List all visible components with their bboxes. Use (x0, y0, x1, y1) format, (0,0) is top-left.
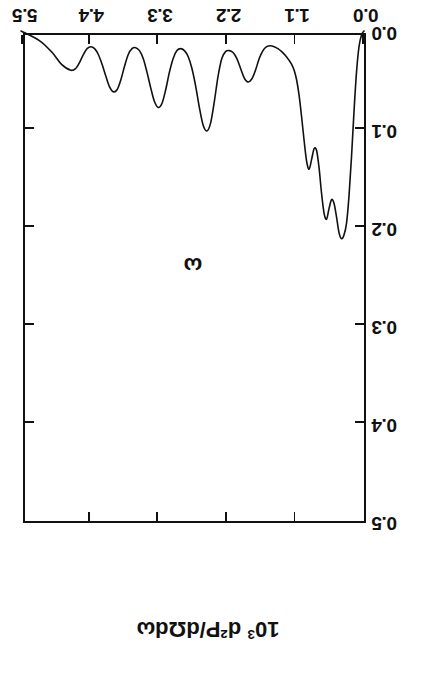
spectrum-curve-path (21, 31, 364, 239)
y-axis-title-rest: d²P/dΩdω (137, 617, 248, 642)
rotated-figure-page: 0.0 1.1 2.2 3.3 4.4 5.5 ω 0.0 0.1 0.2 0.… (0, 0, 445, 674)
xtick-label-1: 1.1 (285, 4, 310, 26)
x-axis-title: ω (184, 252, 203, 278)
ytick-label-4: 0.4 (372, 414, 418, 436)
ytick-label-5: 0.5 (372, 512, 418, 534)
ytick-label-3: 0.3 (372, 316, 418, 338)
ytick-label-0: 0.0 (372, 22, 418, 44)
y-axis-title-prefix: 10 (255, 617, 279, 642)
y-axis-title-exponent: 3 (247, 627, 255, 642)
plot-frame (23, 33, 366, 523)
y-axis-title: 103 d²P/dΩdω (137, 616, 280, 642)
ytick-label-1: 0.1 (372, 120, 418, 142)
xtick-label-4: 4.4 (79, 4, 104, 26)
xtick-label-3: 3.3 (148, 4, 173, 26)
spectrum-figure: 0.0 1.1 2.2 3.3 4.4 5.5 ω 0.0 0.1 0.2 0.… (0, 0, 445, 674)
ytick-label-2: 0.2 (372, 218, 418, 240)
xtick-label-2: 2.2 (216, 4, 241, 26)
xtick-label-5: 5.5 (13, 4, 38, 26)
